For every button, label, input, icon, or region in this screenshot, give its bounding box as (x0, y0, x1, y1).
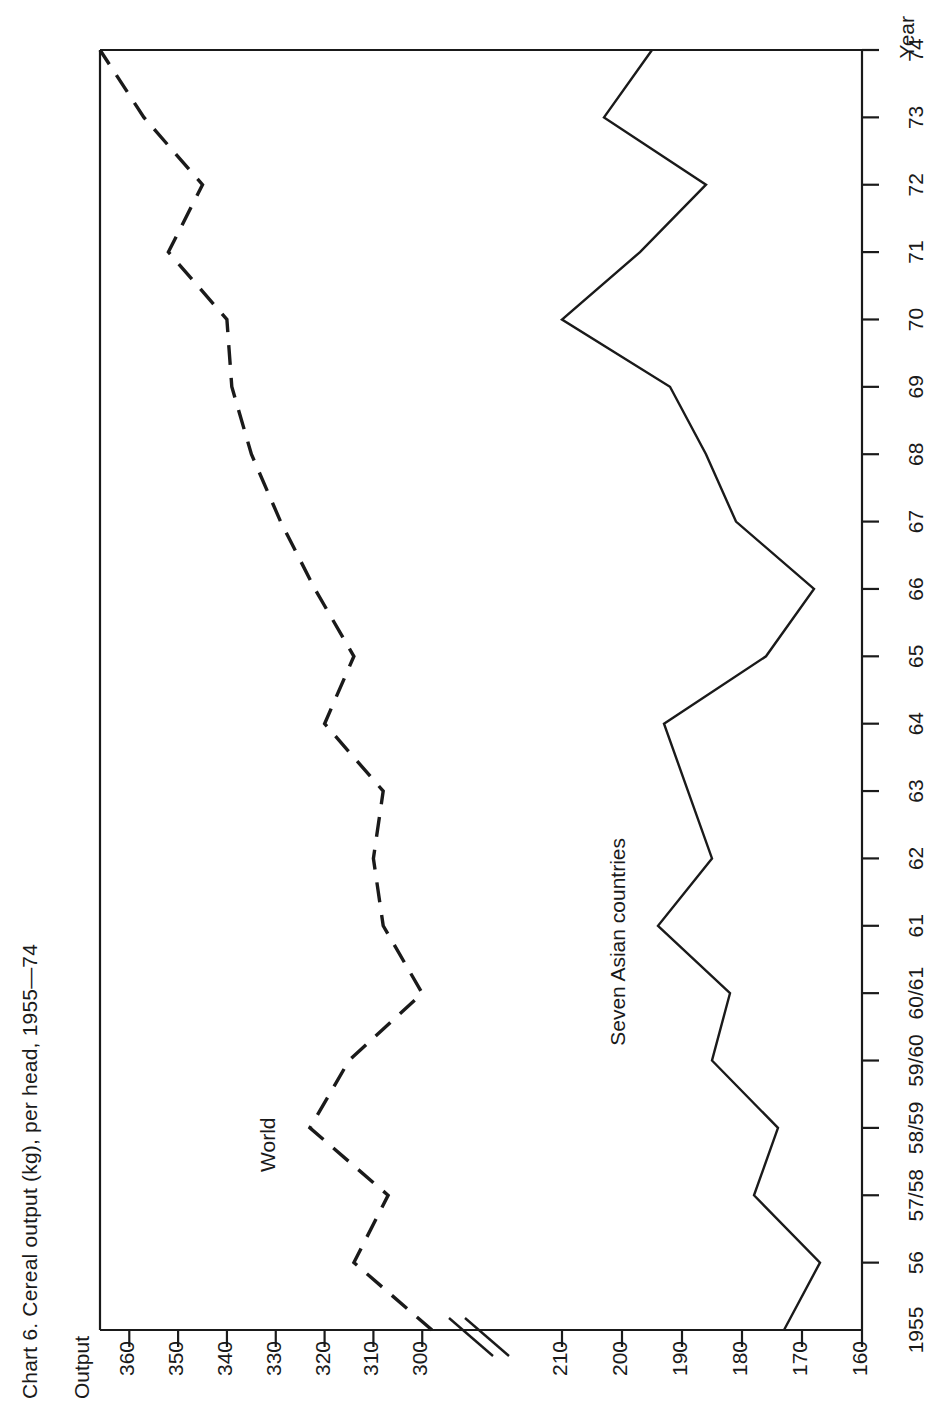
x-tick-label: 66 (904, 577, 928, 600)
rotated-page-wrapper: Chart 6. Cereal output (kg), per head, 1… (0, 0, 933, 1427)
x-tick-label: 63 (904, 779, 928, 802)
x-tick-label: 62 (904, 847, 928, 870)
x-tick-label: 69 (904, 375, 928, 398)
x-tick-label: 65 (904, 645, 928, 668)
y-axis-title: Output (70, 1336, 94, 1399)
chart-figure: Chart 6. Cereal output (kg), per head, 1… (0, 0, 933, 1427)
x-tick-label: 71 (904, 240, 928, 263)
x-tick-label: 70 (904, 308, 928, 331)
axis-break-marker (449, 1318, 509, 1356)
page-title: Chart 6. Cereal output (kg), per head, 1… (18, 944, 42, 1399)
plot-svg (100, 50, 862, 1330)
x-tick-label: 74 (904, 38, 928, 61)
series-label-seven-asian-countries: Seven Asian countries (606, 838, 630, 1046)
series-label-world: World (256, 1117, 280, 1171)
x-axis-ticks (862, 50, 879, 1263)
x-tick-label: 59/60 (904, 1034, 928, 1087)
x-tick-label: 60/61 (904, 967, 928, 1020)
x-tick-label: 56 (904, 1251, 928, 1274)
series-line-seven-asian-countries (562, 50, 820, 1330)
x-tick-label: 58/59 (904, 1102, 928, 1155)
plot-area: 360350340330320310300210200190180170160 … (100, 50, 862, 1330)
plot-frame (100, 50, 862, 1330)
x-tick-label: 61 (904, 914, 928, 937)
x-tick-label: 72 (904, 173, 928, 196)
x-tick-label: 73 (904, 106, 928, 129)
x-tick-label: 67 (904, 510, 928, 533)
x-tick-label: 64 (904, 712, 928, 735)
x-tick-label: 1955 (904, 1307, 928, 1354)
x-tick-label: 68 (904, 443, 928, 466)
x-tick-label: 57/58 (904, 1169, 928, 1222)
